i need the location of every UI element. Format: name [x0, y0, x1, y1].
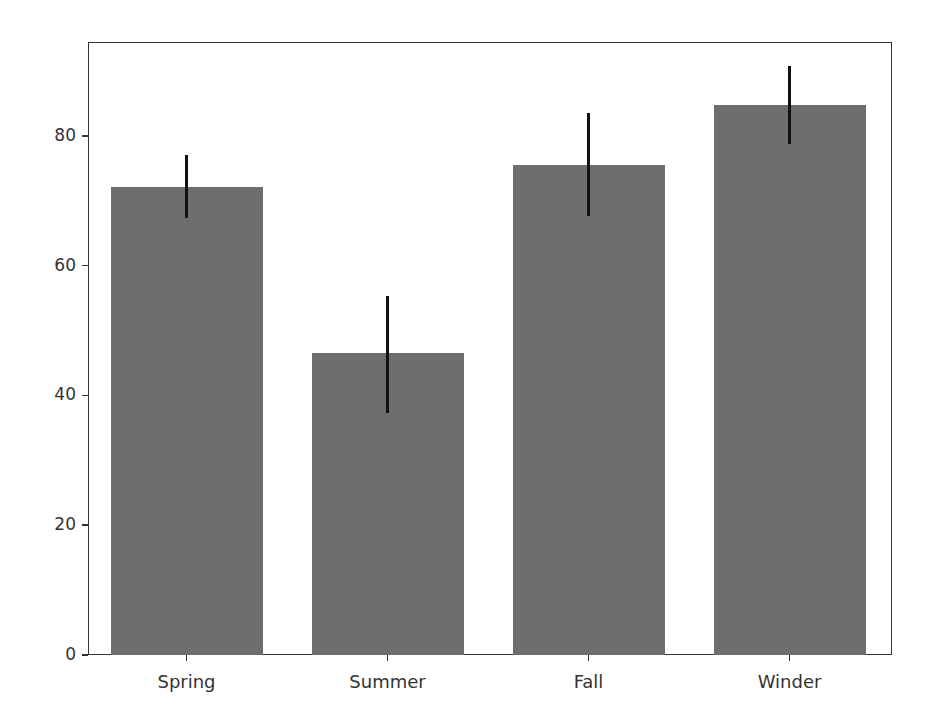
error-bar-fall: [587, 113, 590, 216]
x-tick: [588, 655, 590, 661]
y-tick-label: 40: [36, 384, 76, 404]
y-tick-label: 20: [36, 514, 76, 534]
error-bar-winder: [788, 66, 791, 145]
y-tick-label: 60: [36, 255, 76, 275]
x-tick: [387, 655, 389, 661]
bar-fall: [513, 165, 665, 655]
x-tick-label: Spring: [107, 671, 267, 692]
y-tick: [82, 135, 88, 137]
bar-spring: [111, 187, 263, 655]
y-tick: [82, 395, 88, 397]
bar-winder: [714, 105, 866, 655]
y-tick: [82, 654, 88, 656]
x-tick-label: Fall: [509, 671, 669, 692]
x-tick-label: Winder: [710, 671, 870, 692]
y-tick: [82, 524, 88, 526]
y-tick-label: 0: [36, 644, 76, 664]
x-tick: [186, 655, 188, 661]
x-tick-label: Summer: [308, 671, 468, 692]
error-bar-spring: [185, 155, 188, 218]
error-bar-summer: [386, 296, 389, 413]
y-tick: [82, 265, 88, 267]
x-tick: [789, 655, 791, 661]
y-tick-label: 80: [36, 125, 76, 145]
